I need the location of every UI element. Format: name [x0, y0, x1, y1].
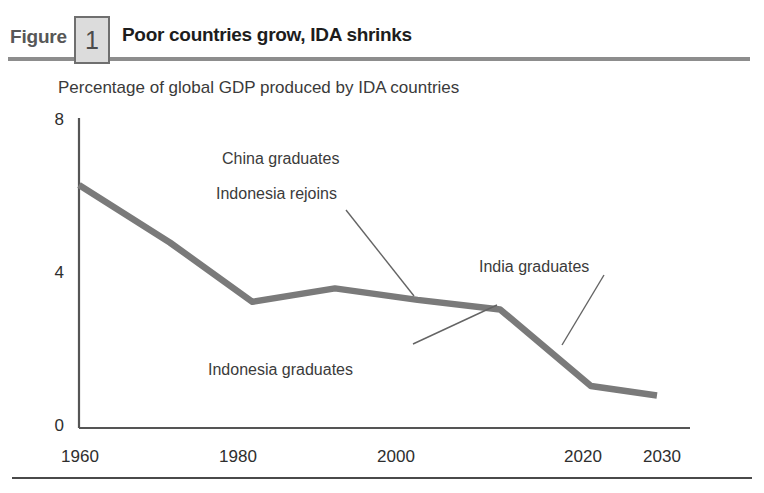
leader-line-india-graduates — [562, 275, 604, 345]
leader-line-china-indonesia — [346, 210, 414, 296]
line-chart-svg — [0, 0, 764, 493]
x-tick-label-2030: 2030 — [622, 447, 702, 467]
annotation-india-graduates: India graduates — [479, 258, 589, 276]
y-tick-label-8: 8 — [24, 110, 64, 130]
annotation-leader-lines — [346, 210, 604, 345]
y-tick-label-0: 0 — [24, 416, 64, 436]
footer-divider — [12, 477, 752, 479]
annotation-indonesia-graduates: Indonesia graduates — [208, 361, 353, 379]
y-tick-label-4: 4 — [24, 263, 64, 283]
chart-axes — [79, 118, 690, 428]
chart-plot-area: 8 4 0 1960 1980 2000 2020 2030 China gra… — [0, 0, 764, 493]
annotation-indonesia-rejoins: Indonesia rejoins — [216, 185, 337, 203]
data-line-ida-share — [79, 185, 657, 395]
chart-series-group — [79, 185, 657, 395]
x-tick-label-2020: 2020 — [543, 447, 623, 467]
x-tick-label-1960: 1960 — [40, 447, 120, 467]
leader-line-indonesia-graduates — [413, 305, 497, 344]
x-tick-label-1980: 1980 — [198, 447, 278, 467]
x-tick-label-2000: 2000 — [356, 447, 436, 467]
figure-panel: Figure 1 Poor countries grow, IDA shrink… — [0, 0, 764, 493]
annotation-china-graduates: China graduates — [222, 150, 339, 168]
